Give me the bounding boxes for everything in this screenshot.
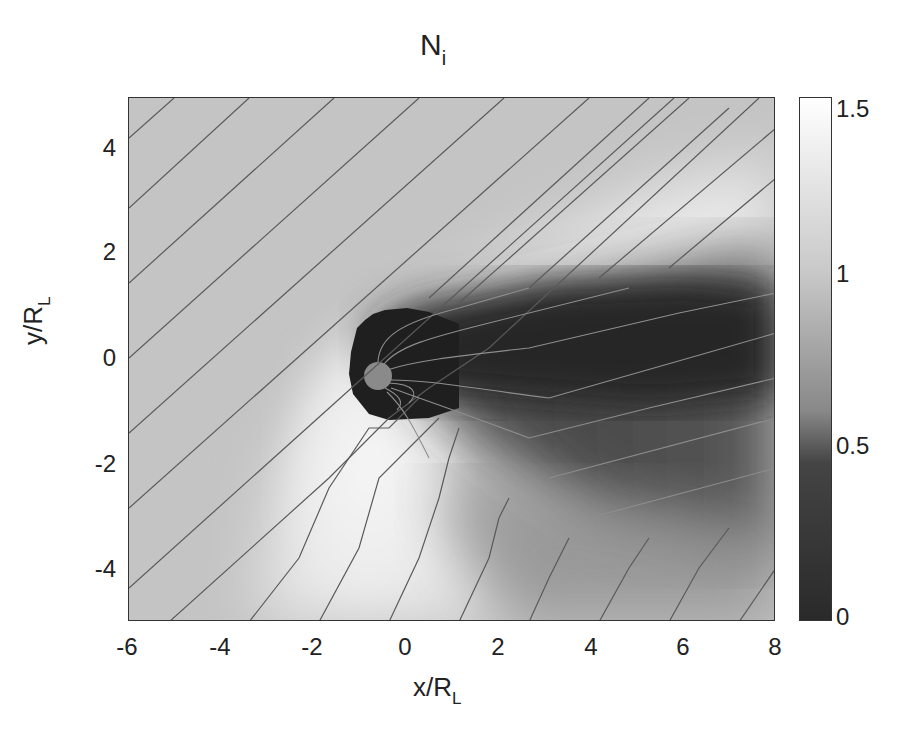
xtick-label: -4 — [195, 633, 245, 661]
ytick-label: 0 — [66, 344, 116, 372]
xtick-label: 8 — [750, 633, 800, 661]
xtick-label: -2 — [287, 633, 337, 661]
y-axis-label: y/RL — [18, 297, 55, 345]
xtick-label: 2 — [473, 633, 523, 661]
xtick-label: 4 — [566, 633, 616, 661]
heatmap-plot-area — [128, 97, 775, 621]
x-axis-label: x/RL — [413, 672, 461, 709]
heatmap-image — [129, 98, 775, 621]
ytick-label: 4 — [66, 134, 116, 162]
ytick-label: 2 — [66, 238, 116, 266]
ytick-label: -4 — [66, 555, 116, 583]
ytick-label: -2 — [66, 450, 116, 478]
colorbar-tick-label: 0 — [836, 603, 849, 631]
xtick-label: 0 — [380, 633, 430, 661]
colorbar-tick-label: 0.5 — [836, 432, 869, 460]
colorbar-tick-label: 1.5 — [836, 95, 869, 123]
xtick-label: 6 — [658, 633, 708, 661]
colorbar-tick-label: 1 — [836, 260, 849, 288]
colorbar — [799, 97, 832, 621]
xtick-label: -6 — [102, 633, 152, 661]
chart-title: Ni — [420, 28, 446, 70]
